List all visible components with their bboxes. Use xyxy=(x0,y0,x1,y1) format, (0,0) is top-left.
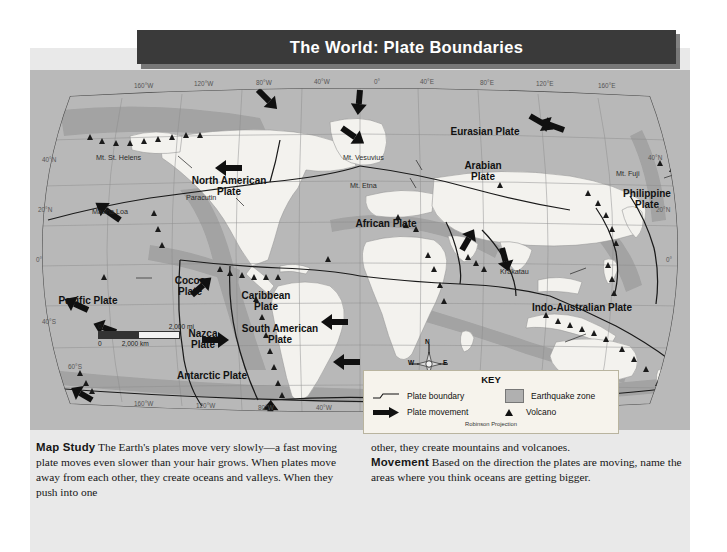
key-label-volcano: Volcano xyxy=(526,407,556,417)
scale-km-zero: 0 xyxy=(98,340,102,347)
page-title: The World: Plate Boundaries xyxy=(290,38,523,57)
caption-column-left: Map Study The Earth's plates move very s… xyxy=(36,440,349,540)
scale-bar-graphic xyxy=(98,331,180,339)
key-title: KEY xyxy=(364,374,618,385)
key-label-plate-boundary: Plate boundary xyxy=(407,391,464,401)
scale-bar: 0 2,000 mi 0 2,000 km xyxy=(98,323,194,347)
map-study-lead: Map Study xyxy=(36,441,95,453)
key-label-plate-movement: Plate movement xyxy=(407,407,468,417)
key-item-volcano: Volcano xyxy=(491,404,618,420)
compass-west-label: W xyxy=(408,359,414,366)
scale-km-row: 0 2,000 km xyxy=(98,340,194,347)
boundary-line-icon xyxy=(372,391,400,401)
caption-block: Map Study The Earth's plates move very s… xyxy=(30,440,690,540)
key-item-plate-movement: Plate movement xyxy=(364,404,491,420)
map-key: KEY Plate boundary Plate movement Earthq… xyxy=(363,370,619,434)
movement-lead: Movement xyxy=(371,456,429,468)
title-bar: The World: Plate Boundaries xyxy=(137,30,676,64)
compass-east-label: E xyxy=(443,359,447,366)
volcano-triangle-icon xyxy=(499,406,519,418)
compass-north-label: N xyxy=(425,338,430,345)
key-item-earthquake-zone: Earthquake zone xyxy=(491,388,618,404)
scale-miles-row: 0 2,000 mi xyxy=(98,323,194,330)
key-item-plate-boundary: Plate boundary xyxy=(364,388,491,404)
scale-miles-value: 2,000 mi xyxy=(169,323,194,330)
arrow-icon xyxy=(372,406,400,418)
earthquake-swatch-icon xyxy=(505,389,524,403)
map-study-continuation: other, they create mountains and volcano… xyxy=(371,441,570,453)
scale-miles-zero: 0 xyxy=(98,323,102,330)
caption-column-right: other, they create mountains and volcano… xyxy=(371,440,684,540)
scale-km-value: 2,000 km xyxy=(122,340,149,347)
projection-note: Robinson Projection xyxy=(364,421,618,427)
key-label-earthquake-zone: Earthquake zone xyxy=(531,391,595,401)
